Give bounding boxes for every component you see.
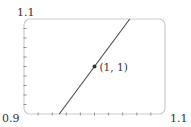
- point-label: (1, 1): [100, 61, 128, 73]
- tangent-line-chart: (1, 1) 1.1 0.9 1.1: [0, 0, 191, 127]
- plot-area: (1, 1) 1.1 0.9 1.1: [0, 0, 191, 127]
- origin-label: 0.9: [2, 112, 20, 125]
- y-max-label: 1.1: [17, 6, 35, 19]
- axis-ticks: [24, 29, 151, 116]
- point-marker: [93, 65, 97, 69]
- x-max-label: 1.1: [170, 112, 188, 125]
